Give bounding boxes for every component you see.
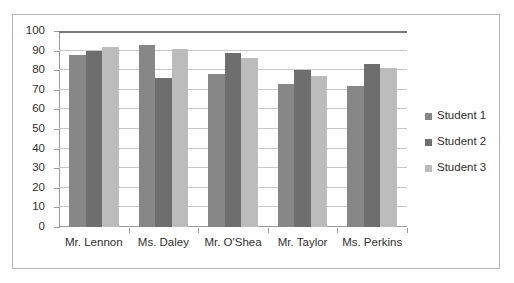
legend-swatch-icon xyxy=(425,139,432,146)
y-tick-mark-0 xyxy=(54,227,59,228)
legend-label: Student 3 xyxy=(437,162,486,174)
y-tick-label-20: 20 xyxy=(32,182,45,194)
y-tick-mark-70 xyxy=(54,90,59,91)
bar[interactable] xyxy=(208,74,225,227)
legend-item[interactable]: Student 1 xyxy=(425,103,495,129)
x-tick-label: Mr. Lennon xyxy=(65,237,123,249)
bar[interactable] xyxy=(241,58,258,227)
legend-swatch-icon xyxy=(425,113,432,120)
bar-group xyxy=(347,31,397,227)
y-tick-mark-90 xyxy=(54,51,59,52)
x-tick-mark xyxy=(198,228,199,233)
bar[interactable] xyxy=(380,68,397,227)
legend-item[interactable]: Student 2 xyxy=(425,129,495,155)
bar[interactable] xyxy=(294,70,311,227)
bar-group xyxy=(208,31,258,227)
legend-item[interactable]: Student 3 xyxy=(425,155,495,181)
bar[interactable] xyxy=(364,64,381,227)
bar[interactable] xyxy=(347,86,364,227)
bar[interactable] xyxy=(225,53,242,227)
bar-group xyxy=(278,31,328,227)
bar[interactable] xyxy=(172,49,189,227)
bar[interactable] xyxy=(69,55,86,227)
x-tick-label: Mr. Taylor xyxy=(278,237,328,249)
bar[interactable] xyxy=(139,45,156,227)
legend-label: Student 1 xyxy=(437,110,486,122)
bar[interactable] xyxy=(86,51,103,227)
bar-group xyxy=(139,31,189,227)
y-tick-label-0: 0 xyxy=(39,221,45,233)
bar[interactable] xyxy=(155,78,172,227)
chart-legend: Student 1Student 2Student 3 xyxy=(425,103,495,181)
x-tick-mark xyxy=(337,228,338,233)
y-tick-mark-20 xyxy=(54,188,59,189)
bars-layer xyxy=(59,31,407,227)
y-tick-label-40: 40 xyxy=(32,143,45,155)
y-tick-label-60: 60 xyxy=(32,104,45,116)
y-tick-mark-10 xyxy=(54,207,59,208)
chart-frame: 0102030405060708090100 Mr. LennonMs. Dal… xyxy=(12,14,500,269)
x-tick-mark xyxy=(129,228,130,233)
y-tick-label-50: 50 xyxy=(32,123,45,135)
x-tick-label: Ms. Perkins xyxy=(342,237,402,249)
y-tick-label-30: 30 xyxy=(32,162,45,174)
x-tick-label: Ms. Daley xyxy=(138,237,189,249)
x-axis-labels: Mr. LennonMs. DaleyMr. O'SheaMr. TaylorM… xyxy=(59,237,407,257)
bar-group xyxy=(69,31,119,227)
y-tick-mark-100 xyxy=(54,31,59,32)
y-axis-labels: 0102030405060708090100 xyxy=(13,31,53,227)
x-tick-mark xyxy=(407,228,408,233)
x-tick-mark xyxy=(268,228,269,233)
bar[interactable] xyxy=(102,47,119,227)
legend-label: Student 2 xyxy=(437,136,486,148)
y-tick-mark-50 xyxy=(54,129,59,130)
y-tick-label-100: 100 xyxy=(26,25,45,37)
y-tick-label-80: 80 xyxy=(32,64,45,76)
plot-area xyxy=(59,31,407,227)
bar[interactable] xyxy=(278,84,295,227)
y-tick-label-70: 70 xyxy=(32,84,45,96)
bar[interactable] xyxy=(311,76,328,227)
legend-swatch-icon xyxy=(425,165,432,172)
y-tick-label-10: 10 xyxy=(32,202,45,214)
y-tick-mark-80 xyxy=(54,70,59,71)
y-tick-mark-60 xyxy=(54,109,59,110)
y-tick-label-90: 90 xyxy=(32,45,45,57)
y-tick-mark-30 xyxy=(54,168,59,169)
y-tick-mark-40 xyxy=(54,149,59,150)
x-tick-label: Mr. O'Shea xyxy=(204,237,261,249)
